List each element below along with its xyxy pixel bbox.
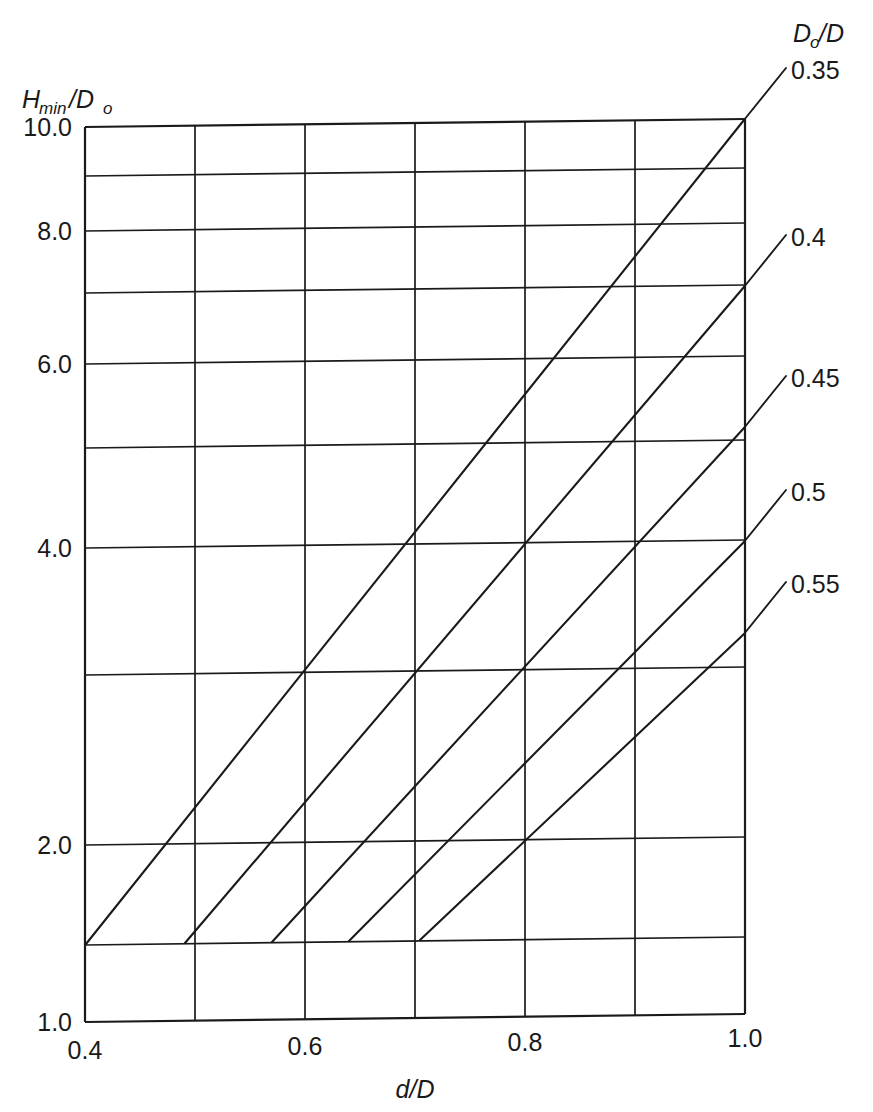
curve-label-0-4: 0.4 xyxy=(791,223,826,251)
y-tick-label-1: 1.0 xyxy=(37,1008,72,1036)
y-tick-label-8: 8.0 xyxy=(37,217,72,245)
nomograph-chart: 10.0 8.0 6.0 4.0 2.0 1.0 H min /D o 0.4 … xyxy=(0,0,873,1112)
curve-label-0-55: 0.55 xyxy=(791,570,840,598)
curve-label-0-45: 0.45 xyxy=(791,364,840,392)
x-tick-label-0-8: 0.8 xyxy=(508,1028,543,1056)
y-axis-title-sub: min xyxy=(39,99,66,118)
curve-label-0-5: 0.5 xyxy=(791,478,826,506)
curve-label-0-35: 0.35 xyxy=(791,56,840,84)
x-tick-label-0-6: 0.6 xyxy=(288,1032,323,1060)
x-tick-label-0-4: 0.4 xyxy=(68,1036,103,1064)
y-tick-label-2: 2.0 xyxy=(37,831,72,859)
y-tick-label-6: 6.0 xyxy=(37,350,72,378)
x-axis-title: d/D xyxy=(396,1075,435,1103)
x-tick-label-1-0: 1.0 xyxy=(728,1024,763,1052)
legend-title-main: D xyxy=(793,19,811,47)
y-axis-title-tail-sub: o xyxy=(103,99,112,118)
legend-title-tail: /D xyxy=(817,19,844,47)
y-tick-label-4: 4.0 xyxy=(37,534,72,562)
y-axis-title-tail: /D xyxy=(67,85,94,113)
